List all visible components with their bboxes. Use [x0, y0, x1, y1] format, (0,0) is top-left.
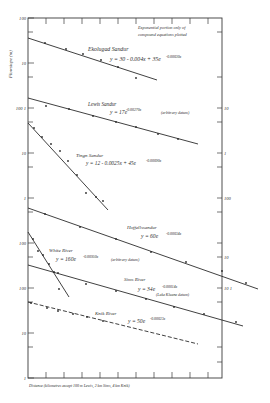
y-tick-label-right: 100 [224, 196, 232, 201]
data-point [32, 238, 34, 240]
y-tick-label-left: 100 [19, 241, 27, 246]
data-point [46, 307, 48, 309]
y-tick-label-right: 10 1 [224, 286, 232, 291]
y-tick-label-right: 10 [224, 106, 229, 111]
label-ek_exp: -0.00030x [166, 55, 182, 59]
y-axis-title: Flowsiope (m) [8, 50, 13, 79]
data-point [115, 290, 117, 292]
y-tick-label-left: 10 [21, 61, 26, 66]
label-hf_eq: y = 60e [140, 233, 159, 239]
label-wr_eq: y = 160e [55, 256, 76, 262]
label-hf_name: Hoffellssandur [126, 225, 157, 230]
label-tg_name: Tingn Sandur [76, 153, 103, 158]
data-point [57, 272, 59, 274]
y-tick-label-left: 100 1 [16, 106, 26, 111]
label-ek_name: Ekolugad Sandur [87, 46, 129, 52]
label-sm_eq: y = 34e [137, 286, 156, 292]
data-point [203, 313, 205, 315]
data-point [135, 126, 137, 128]
data-point [30, 302, 32, 304]
data-point [115, 238, 117, 240]
y-tick-label-left: 1 [24, 196, 26, 201]
data-point [85, 192, 87, 194]
y-tick-label-left: 10 [21, 331, 26, 336]
label-wr_exp: -0.00950x [83, 255, 99, 259]
data-point [33, 127, 35, 129]
data-point [235, 321, 237, 323]
data-point [85, 283, 87, 285]
label-sm_dat: (Lake Kluane datum) [156, 293, 190, 297]
label-tg_eq: y = 12 - 0.0025x + 45e [85, 160, 137, 166]
data-point [117, 66, 119, 68]
label-note2: compound equations plotted [138, 32, 188, 37]
data-point [72, 313, 74, 315]
data-point [48, 263, 50, 265]
label-lw_eq: y = 17e [109, 109, 128, 115]
label-lw_exp: -0.00270x [126, 108, 142, 112]
data-point [82, 53, 84, 55]
data-point [115, 121, 117, 123]
label-hf_exp: -0.00034x [166, 232, 182, 236]
data-point [95, 196, 97, 198]
label-sm_name: Sims River [124, 277, 146, 282]
data-point [135, 77, 137, 79]
label-kn_eq: y = 50e [127, 318, 146, 324]
data-point [65, 48, 67, 50]
y-tick-label-right: 1 [224, 151, 226, 156]
data-point [185, 261, 187, 263]
data-point [57, 310, 59, 312]
data-point [59, 150, 61, 152]
data-point [86, 316, 88, 318]
data-point [67, 160, 69, 162]
label-tg_exp: -0.00090x [146, 159, 162, 163]
label-kn_name: Knik River [94, 311, 117, 316]
label-ek_eq: y = 30 - 0.004x + 35e [109, 56, 161, 62]
data-point [221, 270, 223, 272]
data-point [150, 251, 152, 253]
data-point [173, 306, 175, 308]
data-point [42, 254, 44, 256]
data-point [44, 42, 46, 44]
data-point [50, 143, 52, 145]
data-point [53, 271, 55, 273]
data-point [102, 320, 104, 322]
label-wr_dat: (arbitrary datum) [111, 257, 140, 262]
data-point [157, 133, 159, 135]
data-point [79, 226, 81, 228]
y-tick-label-right: 10 [224, 255, 229, 260]
data-point [100, 59, 102, 61]
label-note1: Exponential portion only of [137, 25, 186, 30]
label-lw_dat: (arbitrary datum) [161, 110, 190, 115]
label-sm_exp: -0.00014x [162, 285, 178, 289]
y-tick-label-left: 100 [19, 286, 27, 291]
data-point [44, 213, 46, 215]
data-point [41, 136, 43, 138]
data-point [68, 108, 70, 110]
data-point [245, 282, 247, 284]
data-point [58, 288, 60, 290]
data-point [76, 174, 78, 176]
label-kn_exp: -0.00023x [150, 317, 166, 321]
data-point [45, 105, 47, 107]
data-point [37, 250, 39, 252]
y-tick-label-left: 1 [24, 376, 26, 381]
chart-canvas: 10010100 11011001001011011001010 1 Expon… [0, 0, 270, 403]
data-point [102, 200, 104, 202]
label-wr_name: White River [49, 248, 73, 253]
data-point [92, 115, 94, 117]
y-tick-label-left: 10 [21, 151, 26, 156]
label-lw_name: Lewis Sandur [87, 101, 117, 107]
data-point [145, 298, 147, 300]
data-point [177, 138, 179, 140]
y-tick-label-left: 100 [19, 16, 27, 21]
